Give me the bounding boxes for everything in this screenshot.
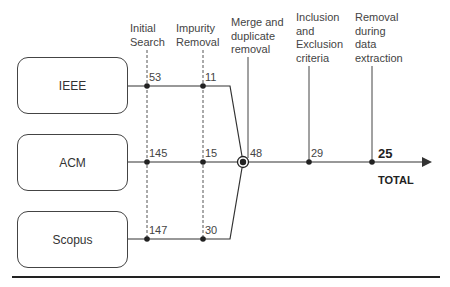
stage-label-merge: Merge and duplicate removal — [231, 16, 284, 57]
count-final: 25 — [378, 146, 392, 161]
scopus-flow-line — [128, 162, 243, 239]
node-dot — [200, 159, 206, 165]
node-dot — [144, 159, 150, 165]
count-ieee-impurity: 11 — [205, 71, 216, 83]
ieee-flow-line — [128, 86, 243, 162]
merge-node-dot — [240, 159, 246, 165]
node-dot — [306, 159, 312, 165]
node-dot — [144, 236, 150, 242]
count-acm-impurity: 15 — [205, 147, 217, 159]
node-dot — [369, 159, 375, 165]
count-merged: 48 — [250, 147, 262, 159]
total-label: TOTAL — [378, 174, 414, 186]
stage-label-inclusion: Inclusion and Exclusion criteria — [296, 11, 343, 65]
source-label: ACM — [59, 156, 86, 170]
node-dot — [144, 83, 150, 89]
stage-label-extraction: Removal during data extraction — [355, 11, 403, 65]
stage-label-impurity-removal: Impurity Removal — [176, 22, 219, 49]
stage-label-initial-search: Initial Search — [130, 22, 165, 49]
count-ieee-initial: 53 — [149, 71, 161, 83]
source-label: IEEE — [59, 79, 86, 93]
source-box-ieee: IEEE — [17, 57, 128, 114]
source-box-scopus: Scopus — [17, 211, 128, 268]
source-label: Scopus — [52, 233, 92, 247]
node-dot — [200, 83, 206, 89]
source-box-acm: ACM — [17, 134, 128, 191]
arrow-head-icon — [422, 157, 432, 167]
count-inclusion: 29 — [311, 147, 323, 159]
count-acm-initial: 145 — [149, 147, 167, 159]
count-scopus-initial: 147 — [149, 224, 167, 236]
node-dot — [200, 236, 206, 242]
count-scopus-impurity: 30 — [205, 224, 217, 236]
